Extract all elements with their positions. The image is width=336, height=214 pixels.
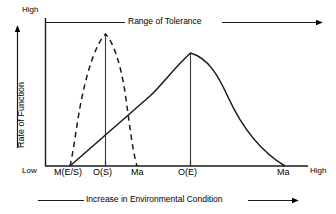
species-e-solid-curve [70, 53, 285, 166]
x-tick-label-ma-e: Ma [277, 167, 290, 177]
y-axis-low-label: Low [22, 166, 37, 176]
x-tick-label-os: O(S) [93, 167, 112, 177]
x-tick-label-ma-s: Ma [131, 167, 144, 177]
x-tick-label-mes: M(E/S) [54, 167, 82, 177]
x-axis-high-label: High [310, 166, 326, 176]
tolerance-curve-diagram [0, 0, 336, 214]
range-of-tolerance-label: Range of Tolerance [128, 16, 202, 26]
y-axis-high-label: High [22, 5, 38, 15]
species-s-dashed-curve [70, 34, 137, 166]
x-axis-caption: Increase in Environmental Condition [86, 194, 223, 204]
y-axis-title: Rate of Function [16, 82, 26, 148]
x-tick-label-oe: O(E) [178, 167, 197, 177]
